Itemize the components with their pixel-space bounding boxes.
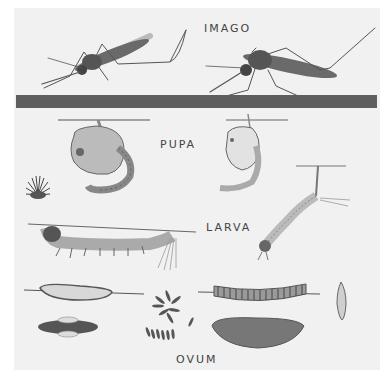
mosquito-right-illustration <box>206 28 375 104</box>
egg-cluster-illustration <box>145 290 195 340</box>
pupa-left-illustration <box>58 120 150 190</box>
divider-bar <box>16 95 377 108</box>
tuft-illustration <box>26 176 50 199</box>
larva-left-illustration <box>28 224 196 270</box>
pupa-right-illustration <box>220 114 288 188</box>
label-imago: IMAGO <box>204 22 251 35</box>
mosquito-left-illustration <box>42 30 186 88</box>
egg-boat-left-illustration <box>24 284 144 300</box>
egg-single-illustration <box>337 282 346 320</box>
label-larva: LARVA <box>206 221 251 234</box>
label-ovum: OVUM <box>176 353 218 366</box>
egg-dark-left-illustration <box>38 317 98 337</box>
egg-raft-top-illustration <box>198 284 320 301</box>
life-cycle-illustration <box>0 0 390 380</box>
egg-raft-bottom-illustration <box>212 318 304 348</box>
label-pupa: PUPA <box>160 138 196 151</box>
larva-right-illustration <box>258 166 350 260</box>
